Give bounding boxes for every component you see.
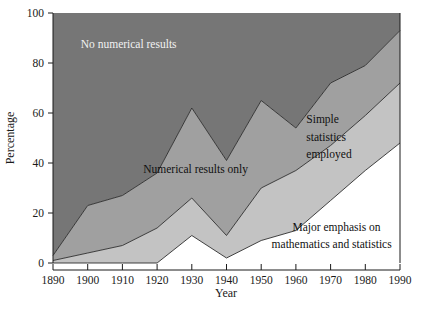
stacked-area-chart: 020406080100 189019001910192019301940195… xyxy=(0,0,422,311)
y-tick-label-0: 0 xyxy=(38,257,44,269)
annotation-employed: employed xyxy=(306,148,352,161)
y-axis-tick-labels: 020406080100 xyxy=(27,7,45,269)
y-tick-label-100: 100 xyxy=(27,7,45,19)
annotation-simple: Simple xyxy=(306,113,339,126)
x-tick-label-1970: 1970 xyxy=(319,274,342,286)
x-axis-tick-labels: 1890190019101920193019401950196019701980… xyxy=(42,274,412,286)
x-tick-label-1990: 1990 xyxy=(389,274,412,286)
y-tick-label-40: 40 xyxy=(33,157,45,169)
annotation-mathematics-and-statistics: mathematics and statistics xyxy=(272,238,393,250)
x-axis-ticks xyxy=(53,264,400,270)
annotation-no-numerical-results: No numerical results xyxy=(81,38,177,50)
y-tick-label-60: 60 xyxy=(33,107,45,119)
x-tick-label-1930: 1930 xyxy=(180,274,203,286)
y-axis-ticks xyxy=(48,13,53,263)
x-tick-label-1900: 1900 xyxy=(76,274,99,286)
x-tick-label-1940: 1940 xyxy=(215,274,238,286)
annotation-numerical-results-only: Numerical results only xyxy=(143,163,248,176)
y-tick-label-20: 20 xyxy=(33,207,45,219)
annotation-statistics: statistics xyxy=(306,131,346,143)
y-tick-label-80: 80 xyxy=(33,57,45,69)
annotation-major-emphasis-on: Major emphasis on xyxy=(292,221,380,234)
x-axis-title: Year xyxy=(215,286,237,300)
x-tick-label-1960: 1960 xyxy=(284,274,307,286)
chart-figure: 020406080100 189019001910192019301940195… xyxy=(0,0,422,311)
y-axis-title: Percentage xyxy=(3,112,17,165)
x-tick-label-1910: 1910 xyxy=(111,274,134,286)
x-tick-label-1980: 1980 xyxy=(354,274,377,286)
x-tick-label-1950: 1950 xyxy=(250,274,273,286)
x-tick-label-1920: 1920 xyxy=(146,274,169,286)
x-tick-label-1890: 1890 xyxy=(42,274,65,286)
